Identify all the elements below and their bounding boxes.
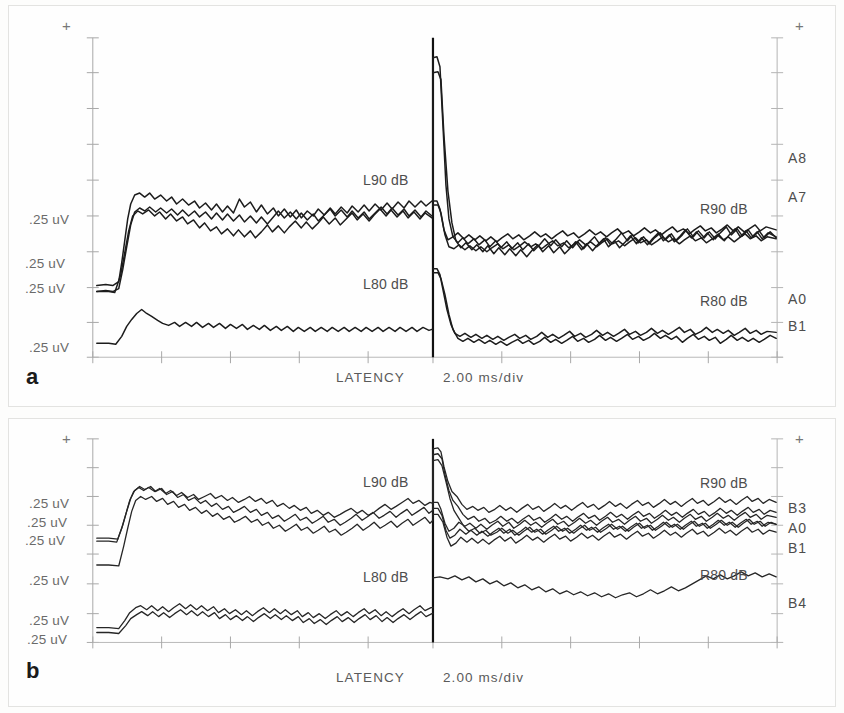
figure-root: + + .25 uV .25 uV .25 uV .25 uV L90 dB R… [0,0,844,713]
panel-b-traces [97,448,776,634]
trace-label-b-l80: L80 dB [363,569,409,585]
y-axis-label-b-5: .25 uV [29,613,69,628]
channel-label-b-b4: B4 [788,595,807,611]
y-axis-label-b-3: .25 uV [25,533,65,548]
y-axis-label-a-4: .25 uV [29,340,69,355]
y-axis-label-a-2: .25 uV [25,256,65,271]
panel-letter-a: a [26,364,38,390]
trace-label-a-r90: R90 dB [700,201,748,217]
y-axis-label-a-3: .25 uV [25,281,65,296]
trace-label-a-l90: L90 dB [363,172,409,188]
channel-label-a-b1: B1 [788,318,807,334]
trace-label-b-l90: L90 dB [363,474,409,490]
trace-label-a-l80: L80 dB [363,276,409,292]
polarity-plus-right-b: + [795,430,804,447]
x-axis-scale-a: 2.00 ms/div [443,370,524,385]
panel-a-traces [97,57,776,346]
polarity-plus-right-a: + [795,17,804,34]
trace-label-b-r90: R90 dB [700,475,748,491]
y-axis-label-b-6: .25 uV [27,632,67,647]
panel-b-axes [87,439,783,649]
channel-label-a-a7: A7 [788,189,807,205]
channel-label-a-a0: A0 [788,291,807,307]
panel-b [8,418,836,707]
y-axis-label-b-4: .25 uV [29,573,69,588]
y-axis-label-a-1: .25 uV [29,212,69,227]
x-axis-scale-b: 2.00 ms/div [443,670,524,685]
y-axis-label-b-1: .25 uV [29,496,69,511]
trace-label-b-r80: R80 dB [700,567,748,583]
polarity-plus-left-b: + [62,430,71,447]
channel-label-b-a0: A0 [788,520,807,536]
panel-letter-b: b [26,658,39,684]
channel-label-b-b3: B3 [788,500,807,516]
x-axis-label-b: LATENCY [336,670,405,685]
channel-label-b-b1: B1 [788,540,807,556]
channel-label-a-a8: A8 [788,150,807,166]
panel-b-plot [9,419,835,706]
panel-b-svg [9,419,835,706]
y-axis-label-b-2: .25 uV [27,515,67,530]
trace-label-a-r80: R80 dB [700,293,748,309]
x-axis-label-a: LATENCY [336,370,405,385]
polarity-plus-left-a: + [62,17,71,34]
